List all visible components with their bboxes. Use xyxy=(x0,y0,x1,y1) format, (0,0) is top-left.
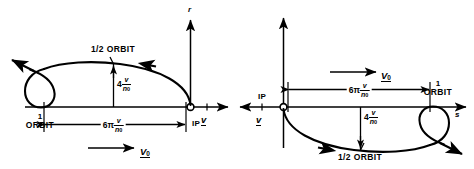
right-height-fraction: vn0 xyxy=(369,109,378,126)
left-exit-arrow xyxy=(12,60,34,71)
right-length-numerator: v xyxy=(360,82,369,89)
left-height-fraction: vn0 xyxy=(122,76,131,93)
right-loop xyxy=(419,107,449,146)
right-exit-arrow xyxy=(440,143,462,154)
left-length-coefficient: 6π xyxy=(103,121,114,130)
left-length-fraction: vn0 xyxy=(114,117,123,134)
left-height-dimension-label: 4vn0 xyxy=(117,76,131,93)
right-ip-label: IP xyxy=(258,93,266,101)
right-velocity-axis-label: v xyxy=(256,110,261,126)
right-v0-label: V0 xyxy=(381,66,391,82)
left-height-denominator: n0 xyxy=(122,85,131,93)
right-horizontal-axis-label: s xyxy=(455,111,459,119)
right-length-dimension-label: 6πvn0 xyxy=(347,82,372,99)
right-trajectory-arc xyxy=(284,109,431,152)
right-orbit-count-label: 1 ORBIT xyxy=(408,79,468,98)
left-ip-label: IP xyxy=(192,120,200,128)
left-length-dimension-label: 6πvn0 xyxy=(101,117,126,134)
right-v0-symbol: V0 xyxy=(381,71,391,82)
left-length-denominator: n0 xyxy=(114,126,123,134)
left-length-numerator: v xyxy=(114,117,123,124)
left-orbit-count-word: ORBIT xyxy=(10,121,70,131)
left-vertical-axis-label: r xyxy=(188,6,191,14)
right-half-orbit-label: 1/2 ORBIT xyxy=(338,153,382,162)
right-length-fraction: vn0 xyxy=(360,82,369,99)
right-arc-direction-arrow xyxy=(318,148,328,150)
left-horizontal-axis-label: v xyxy=(201,110,206,126)
left-arc-direction-arrow xyxy=(146,65,156,67)
right-height-dimension-label: 4vn0 xyxy=(364,109,378,126)
left-half-orbit-label: 1/2 ORBIT xyxy=(91,45,135,54)
left-orbit-count-label: 1 ORBIT xyxy=(10,112,70,131)
left-loop xyxy=(25,69,55,108)
left-v0-symbol: V0 xyxy=(140,147,150,158)
diagram-canvas xyxy=(0,0,474,169)
right-orbit-count-word: ORBIT xyxy=(408,88,468,98)
right-length-coefficient: 6π xyxy=(349,86,360,95)
orbit-diagram-figure: r v 1/2 ORBIT 1 ORBIT IP 4vn0 6πvn0 V0 I… xyxy=(0,0,474,169)
right-length-denominator: n0 xyxy=(360,91,369,99)
left-v0-label: V0 xyxy=(140,142,150,158)
right-height-numerator: v xyxy=(369,109,378,116)
left-height-numerator: v xyxy=(122,76,131,83)
right-height-denominator: n0 xyxy=(369,118,378,126)
